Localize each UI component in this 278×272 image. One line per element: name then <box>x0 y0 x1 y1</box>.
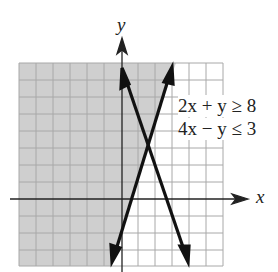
x-axis-label: x <box>256 186 264 208</box>
inequality-1: 2x + y ≥ 8 <box>178 95 256 117</box>
y-axis-label: y <box>117 14 125 36</box>
inequality-2: 4x − y ≤ 3 <box>178 118 256 140</box>
